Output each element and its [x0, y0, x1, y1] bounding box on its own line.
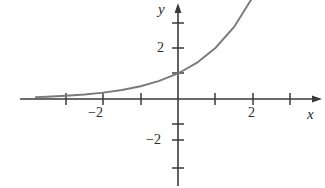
x-tick-label-pos2: 2 [248, 106, 255, 120]
exponential-function-graph: y x −2 2 2 −2 [0, 0, 325, 188]
coordinate-plane [0, 0, 325, 188]
y-tick-label-pos2: 2 [157, 41, 164, 55]
x-tick-label-neg2: −2 [88, 106, 103, 120]
y-tick-label-neg2: −2 [146, 133, 161, 147]
x-axis-label: x [307, 107, 314, 122]
x-axis-arrowhead [312, 96, 322, 103]
y-axis-arrowhead [175, 3, 182, 13]
exponential-curve [36, 0, 253, 97]
y-axis-label: y [158, 2, 165, 17]
